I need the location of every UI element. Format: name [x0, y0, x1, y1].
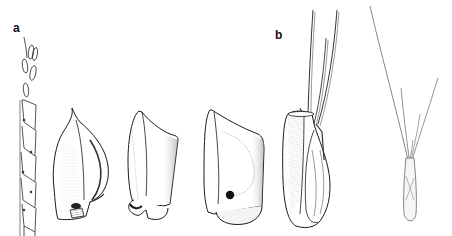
floret-with-awns — [283, 10, 339, 228]
illustration-canvas — [0, 0, 452, 236]
spikelet-view-3 — [204, 110, 264, 225]
botanical-figure: a b — [0, 0, 452, 236]
spikelet-view-1 — [53, 108, 108, 220]
awned-spikelet — [370, 6, 438, 221]
spike-drawing — [20, 37, 38, 236]
spikelet-view-2 — [128, 111, 178, 220]
